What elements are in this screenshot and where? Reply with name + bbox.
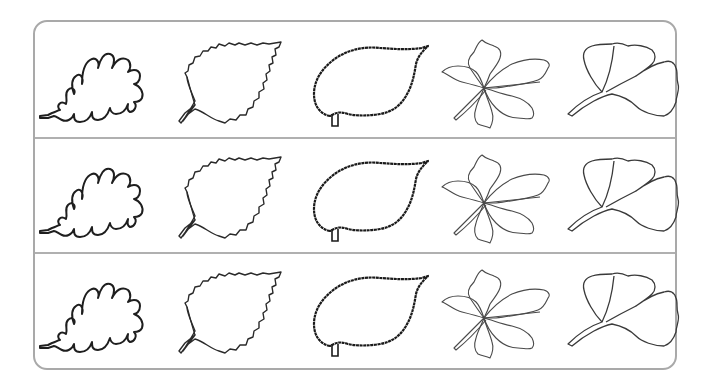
ginkgo-leaf-outline [566, 40, 682, 120]
leaf-row-1 [0, 0, 711, 115]
leaf-row-3 [0, 230, 711, 345]
chestnut-leaf-outline [440, 268, 554, 360]
leaf-row-2 [0, 115, 711, 230]
ginkgo-leaf-outline [566, 155, 682, 235]
beech-leaf-outline [310, 272, 432, 360]
ginkgo-leaf-outline [566, 270, 682, 350]
oak-leaf-outline [38, 270, 148, 358]
birch-leaf-outline [173, 271, 285, 357]
